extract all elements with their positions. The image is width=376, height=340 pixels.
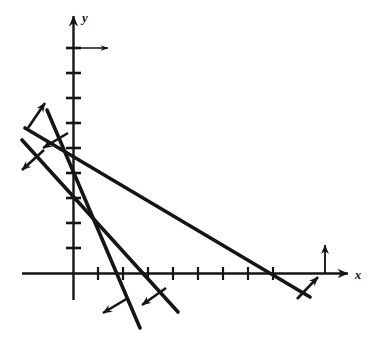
y-axis-label: y	[80, 10, 88, 25]
boundary-lines-group	[22, 110, 310, 328]
line-shallow	[25, 128, 310, 297]
line-steep-bottom-arrow	[103, 298, 128, 313]
line-medium	[22, 140, 178, 312]
x-axis-label: x	[354, 267, 362, 282]
line-steep	[47, 110, 140, 328]
line-steep-up-right-arrow	[28, 103, 45, 128]
coordinate-plane-svg: x y	[0, 0, 376, 340]
